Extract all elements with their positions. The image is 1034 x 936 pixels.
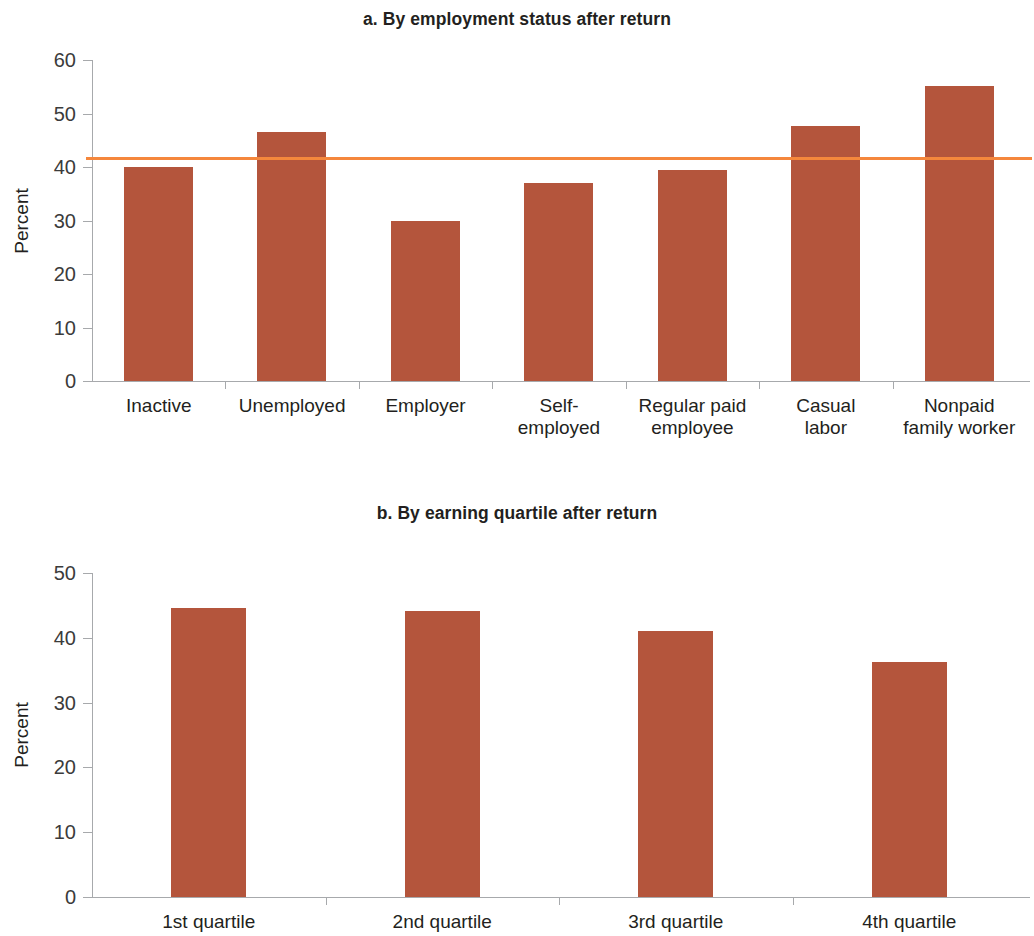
y-axis-tick-label: 50 [54, 563, 76, 583]
bar [638, 631, 713, 897]
panel-a-y-axis-label: Percent [11, 188, 33, 253]
y-axis-tick-mark [83, 897, 92, 898]
x-axis-line [92, 897, 1030, 898]
x-axis-tick-mark [492, 381, 493, 389]
chart-panel-b: b. By earning quartile after return Perc… [0, 480, 1034, 936]
x-axis-tick-label: Inactive [92, 395, 225, 417]
panel-b-title: b. By earning quartile after return [0, 503, 1034, 524]
bar [124, 167, 193, 381]
y-axis-tick-mark [83, 328, 92, 329]
average-reference-line [86, 157, 1032, 160]
x-axis-tick-label: Casual labor [759, 395, 892, 440]
x-axis-tick-label: Employer [359, 395, 492, 417]
bar [405, 611, 480, 897]
y-axis-tick-mark [83, 832, 92, 833]
x-axis-line [92, 381, 1030, 382]
y-axis-line [92, 573, 93, 897]
bar [524, 183, 593, 381]
y-axis-tick-mark [83, 638, 92, 639]
x-axis-tick-mark [559, 897, 560, 905]
y-axis-tick-mark [83, 114, 92, 115]
y-axis-tick-label: 10 [54, 822, 76, 842]
chart-panel-a: a. By employment status after return Per… [0, 0, 1034, 470]
y-axis-tick-mark [83, 274, 92, 275]
x-axis-tick-mark [359, 381, 360, 389]
y-axis-tick-label: 10 [54, 318, 76, 338]
y-axis-tick-label: 50 [54, 104, 76, 124]
x-axis-tick-mark [759, 381, 760, 389]
y-axis-tick-label: 20 [54, 757, 76, 777]
y-axis-tick-label: 40 [54, 628, 76, 648]
y-axis-tick-mark [83, 767, 92, 768]
x-axis-tick-label: 3rd quartile [559, 911, 793, 933]
x-axis-tick-label: 1st quartile [92, 911, 326, 933]
y-axis-tick-mark [83, 221, 92, 222]
bar [925, 86, 994, 381]
y-axis-line [92, 60, 93, 381]
panel-a-plot-area [92, 60, 1026, 381]
x-axis-tick-mark [326, 897, 327, 905]
bar [257, 132, 326, 381]
bar [791, 126, 860, 381]
x-axis-tick-mark [893, 381, 894, 389]
y-axis-tick-label: 20 [54, 264, 76, 284]
x-axis-tick-mark [225, 381, 226, 389]
x-axis-tick-label: 4th quartile [793, 911, 1027, 933]
panel-a-title: a. By employment status after return [0, 9, 1034, 30]
y-axis-tick-mark [83, 381, 92, 382]
x-axis-tick-mark [626, 381, 627, 389]
x-axis-tick-label: Self- employed [492, 395, 625, 440]
bar [658, 170, 727, 381]
x-axis-tick-mark [793, 897, 794, 905]
y-axis-tick-label: 0 [65, 887, 76, 907]
y-axis-tick-label: 40 [54, 157, 76, 177]
x-axis-tick-label: 2nd quartile [326, 911, 560, 933]
bar [171, 608, 246, 897]
x-axis-tick-label: Regular paid employee [626, 395, 759, 440]
y-axis-tick-label: 60 [54, 50, 76, 70]
y-axis-tick-label: 30 [54, 693, 76, 713]
y-axis-tick-label: 30 [54, 211, 76, 231]
x-axis-tick-label: Unemployed [225, 395, 358, 417]
panel-b-y-axis-label: Percent [11, 702, 33, 767]
panel-b-plot-area [92, 573, 1026, 897]
y-axis-tick-mark [83, 573, 92, 574]
y-axis-tick-mark [83, 60, 92, 61]
bar [391, 221, 460, 381]
y-axis-tick-mark [83, 703, 92, 704]
x-axis-tick-label: Nonpaid family worker [893, 395, 1026, 440]
y-axis-tick-mark [83, 167, 92, 168]
bar [872, 662, 947, 897]
figure-container: a. By employment status after return Per… [0, 0, 1034, 936]
y-axis-tick-label: 0 [65, 371, 76, 391]
